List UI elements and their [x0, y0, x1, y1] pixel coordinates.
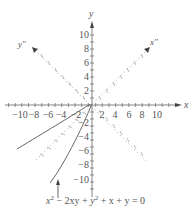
chart: x y x" y" −10 −8 −6 −4 −2 2 4 6 8 10 10 …	[0, 0, 191, 214]
y-prime-label: y"	[17, 39, 26, 49]
x-axis-label: x	[183, 99, 189, 110]
svg-text:6: 6	[84, 57, 89, 68]
y-tick-labels: 10 8 6 4 2 −2 −4 −6 −8 −10	[73, 29, 89, 185]
svg-text:−10: −10	[73, 174, 89, 185]
svg-text:−6: −6	[78, 145, 89, 156]
svg-text:−4: −4	[78, 131, 89, 142]
y-prime-arrow-icon	[32, 47, 38, 53]
svg-text:−8: −8	[29, 109, 40, 120]
svg-text:2: 2	[100, 109, 105, 120]
svg-text:8: 8	[84, 43, 89, 54]
x-axis-arrow-icon	[175, 103, 182, 107]
svg-text:4: 4	[113, 109, 118, 120]
svg-text:−4: −4	[56, 109, 67, 120]
svg-text:−10: −10	[12, 109, 28, 120]
svg-text:6: 6	[127, 109, 132, 120]
svg-text:10: 10	[152, 109, 162, 120]
y-axis-arrow-icon	[90, 21, 94, 28]
svg-text:4: 4	[84, 71, 89, 82]
svg-text:8: 8	[140, 109, 145, 120]
svg-text:2: 2	[84, 85, 89, 96]
x-prime-label: x"	[149, 37, 158, 47]
annotation-arrow-icon	[56, 179, 60, 185]
svg-text:−8: −8	[78, 159, 89, 170]
svg-text:−2: −2	[78, 117, 89, 128]
equation-label: x2 − 2xy + y2 + x + y = 0	[45, 194, 145, 206]
y-axis-label: y	[88, 8, 94, 19]
rotated-y-axis	[35, 50, 146, 161]
svg-text:−6: −6	[43, 109, 54, 120]
svg-text:10: 10	[79, 29, 89, 40]
